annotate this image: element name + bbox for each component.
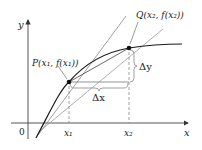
point-p <box>67 80 72 85</box>
q-label-pointer <box>130 22 138 44</box>
secant-tangent-diagram: y 0 x₁ x₂ x P(x₁, f(x₁)) Q(x₂, f(x₂)) Δx… <box>0 0 202 150</box>
point-q-label: Q(x₂, f(x₂)) <box>136 10 184 20</box>
dy-label: Δy <box>139 61 152 72</box>
tangent-line <box>38 16 126 135</box>
point-p-label: P(x₁, f(x₁)) <box>31 58 79 68</box>
x-axis-label: x <box>184 127 190 138</box>
dy-brace <box>130 50 137 82</box>
dx-label: Δx <box>92 92 105 103</box>
x1-tick-label: x₁ <box>64 128 73 138</box>
x2-tick-label: x₂ <box>124 128 133 138</box>
origin-label: 0 <box>19 127 25 137</box>
secant-line <box>40 29 163 131</box>
y-axis-label: y <box>17 19 24 30</box>
dx-brace <box>70 83 128 91</box>
point-q <box>127 46 132 51</box>
